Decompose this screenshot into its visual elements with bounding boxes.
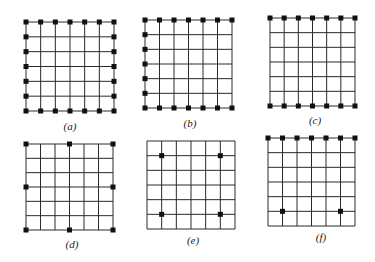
node-marker <box>38 109 43 114</box>
node-marker <box>338 104 343 109</box>
node-marker <box>157 106 162 111</box>
node-marker <box>296 104 301 109</box>
node-marker <box>309 136 314 141</box>
node-marker <box>218 153 223 158</box>
node-marker <box>282 16 287 21</box>
node-marker <box>230 106 235 111</box>
node-marker <box>53 20 58 25</box>
node-marker <box>296 16 301 21</box>
node-marker <box>24 94 29 99</box>
node-marker <box>24 79 29 84</box>
node-marker <box>143 76 148 81</box>
node-marker <box>353 16 358 21</box>
node-marker <box>338 16 343 21</box>
node-marker <box>280 209 285 214</box>
grid-lines <box>270 18 355 106</box>
node-marker <box>324 104 329 109</box>
node-marker <box>143 62 148 67</box>
node-marker <box>338 136 343 141</box>
node-marker <box>24 109 29 114</box>
node-marker <box>24 185 29 190</box>
node-marker <box>112 79 117 84</box>
node-marker <box>295 136 300 141</box>
node-marker <box>67 228 72 233</box>
node-marker <box>201 106 206 111</box>
node-marker <box>215 18 220 23</box>
node-marker <box>268 104 273 109</box>
panel-f: (f) <box>266 136 358 245</box>
node-marker <box>67 142 72 147</box>
node-marker <box>172 18 177 23</box>
node-marker <box>82 109 87 114</box>
node-marker <box>68 109 73 114</box>
node-marker <box>97 109 102 114</box>
node-marker <box>111 228 116 233</box>
node-marker <box>143 32 148 37</box>
node-marker <box>24 34 29 39</box>
node-marker <box>82 20 87 25</box>
panel-d: (d) <box>24 142 116 252</box>
node-marker <box>111 185 116 190</box>
node-marker <box>24 49 29 54</box>
panel-label: (f) <box>316 231 327 244</box>
node-marker <box>157 18 162 23</box>
node-marker <box>24 64 29 69</box>
node-marker <box>266 136 271 141</box>
node-marker <box>218 212 223 217</box>
grid-lines <box>145 20 232 108</box>
node-marker <box>201 18 206 23</box>
node-marker <box>186 18 191 23</box>
node-marker <box>24 20 29 25</box>
node-marker <box>53 109 58 114</box>
grid-lines <box>26 22 114 111</box>
node-marker <box>268 16 273 21</box>
panel-a: (a) <box>24 20 117 134</box>
node-marker <box>310 16 315 21</box>
node-marker <box>338 209 343 214</box>
node-marker <box>24 142 29 147</box>
node-marker <box>324 136 329 141</box>
node-marker <box>143 47 148 52</box>
node-marker <box>172 106 177 111</box>
node-marker <box>112 64 117 69</box>
grid-figure: (a)(b)(c)(d)(e)(f) <box>0 0 375 262</box>
panel-label: (e) <box>187 234 200 247</box>
node-marker <box>215 106 220 111</box>
panel-label: (c) <box>309 114 322 127</box>
node-marker <box>143 106 148 111</box>
node-marker <box>112 34 117 39</box>
node-marker <box>112 20 117 25</box>
node-marker <box>112 49 117 54</box>
node-marker <box>143 18 148 23</box>
node-marker <box>112 94 117 99</box>
node-marker <box>282 104 287 109</box>
node-marker <box>310 104 315 109</box>
panel-e: (e) <box>147 141 235 247</box>
node-marker <box>112 109 117 114</box>
node-marker <box>68 20 73 25</box>
node-marker <box>353 104 358 109</box>
node-marker <box>353 136 358 141</box>
node-marker <box>186 106 191 111</box>
node-marker <box>159 153 164 158</box>
node-marker <box>97 20 102 25</box>
node-marker <box>159 212 164 217</box>
panel-label: (a) <box>64 120 77 133</box>
panel-c: (c) <box>268 16 358 128</box>
node-marker <box>143 91 148 96</box>
panel-label: (b) <box>184 117 197 130</box>
node-marker <box>24 228 29 233</box>
node-marker <box>230 18 235 23</box>
node-marker <box>38 20 43 25</box>
node-marker <box>280 136 285 141</box>
node-marker <box>111 142 116 147</box>
node-marker <box>324 16 329 21</box>
grid-lines <box>26 144 113 230</box>
panel-label: (d) <box>66 238 79 251</box>
panel-b: (b) <box>143 18 235 131</box>
